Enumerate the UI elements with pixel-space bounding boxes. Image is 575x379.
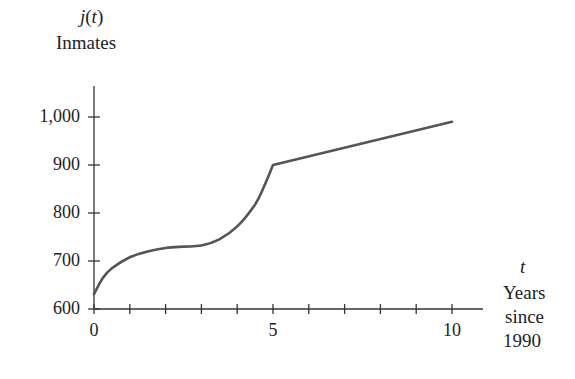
x-axis-label-line-1: Years bbox=[503, 282, 545, 304]
x-axis-label-line-3: 1990 bbox=[503, 330, 541, 352]
y-tick-label: 700 bbox=[10, 250, 80, 271]
axes bbox=[94, 86, 483, 309]
x-axis-variable-label: t bbox=[520, 256, 525, 278]
x-axis-label-line-2: since bbox=[505, 306, 544, 328]
y-axis-function-label: j(t) bbox=[80, 6, 103, 28]
data-line-j-of-t bbox=[94, 122, 452, 294]
y-tick-label: 1,000 bbox=[10, 106, 80, 127]
y-tick-label: 800 bbox=[10, 202, 80, 223]
y-tick-label: 600 bbox=[10, 298, 80, 319]
y-tick-label: 900 bbox=[10, 154, 80, 175]
x-tick-label: 0 bbox=[74, 320, 114, 341]
x-tick-label: 5 bbox=[253, 320, 293, 341]
y-axis-label: Inmates bbox=[56, 32, 116, 54]
x-tick-label: 10 bbox=[432, 320, 472, 341]
tick-marks bbox=[88, 117, 452, 314]
